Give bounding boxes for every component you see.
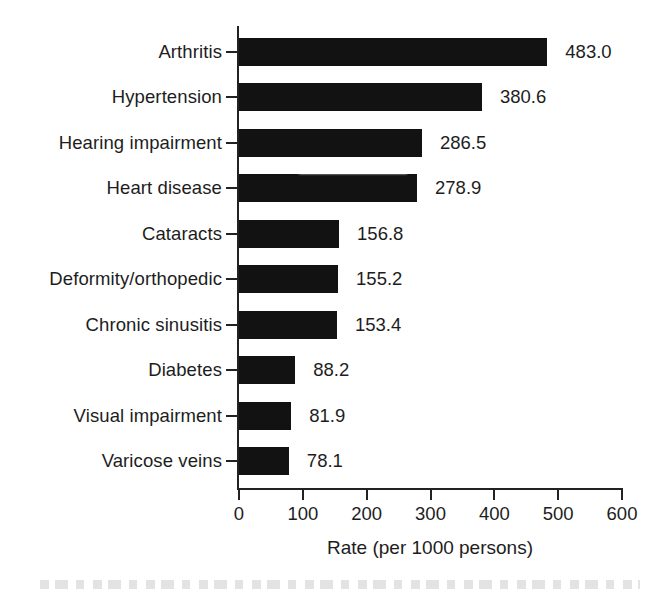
bar [239, 265, 338, 293]
bar [239, 174, 417, 202]
x-axis-tick [238, 490, 240, 500]
bar [239, 83, 482, 111]
category-tick-mark [226, 278, 237, 280]
category-label: Varicose veins [102, 450, 222, 472]
bar-value-label: 380.6 [500, 86, 546, 108]
category-label: Arthritis [158, 41, 222, 63]
x-axis-tick-label: 200 [351, 503, 382, 525]
bar-value-label: 286.5 [440, 132, 486, 154]
bar-row: Heart disease278.9 [0, 166, 668, 212]
category-label: Hypertension [112, 86, 222, 108]
category-tick-mark [226, 96, 237, 98]
x-axis-tick-label: 400 [479, 503, 510, 525]
bar [239, 220, 339, 248]
x-axis-tick [366, 490, 368, 500]
x-axis-tick-label: 100 [287, 503, 318, 525]
category-tick-mark [226, 415, 237, 417]
bar [239, 447, 289, 475]
bar [239, 402, 291, 430]
bar-row: Varicose veins78.1 [0, 439, 668, 485]
category-tick-mark [226, 233, 237, 235]
category-tick-mark [226, 142, 237, 144]
bar-row: Hypertension380.6 [0, 75, 668, 121]
x-axis-tick-label: 600 [607, 503, 638, 525]
bar-chart-plot-area: Arthritis483.0Hypertension380.6Hearing i… [0, 0, 668, 593]
category-tick-mark [226, 324, 237, 326]
category-label: Hearing impairment [59, 132, 222, 154]
x-axis-tick [493, 490, 495, 500]
category-label: Cataracts [142, 223, 222, 245]
bar-value-label: 156.8 [357, 223, 403, 245]
bar-row: Cataracts156.8 [0, 211, 668, 257]
x-axis-tick-label: 300 [415, 503, 446, 525]
category-tick-mark [226, 369, 237, 371]
x-axis-tick [430, 490, 432, 500]
bar-value-label: 81.9 [309, 405, 345, 427]
scan-artifact [40, 580, 640, 589]
bar-value-label: 155.2 [356, 268, 402, 290]
bar [239, 129, 422, 157]
x-axis-tick [557, 490, 559, 500]
bar-row: Hearing impairment286.5 [0, 120, 668, 166]
x-axis-title: Rate (per 1000 persons) [237, 537, 623, 559]
bar-value-label: 88.2 [313, 359, 349, 381]
bar-value-label: 278.9 [435, 177, 481, 199]
bar [239, 311, 337, 339]
category-label: Visual impairment [74, 405, 222, 427]
bar-row: Chronic sinusitis153.4 [0, 302, 668, 348]
bar-value-label: 483.0 [565, 41, 611, 63]
category-tick-mark [226, 460, 237, 462]
category-tick-mark [226, 187, 237, 189]
category-label: Deformity/orthopedic [49, 268, 222, 290]
scan-streak [299, 171, 407, 174]
x-axis-tick-label: 0 [234, 503, 244, 525]
bar-row: Visual impairment81.9 [0, 393, 668, 439]
x-axis-tick-label: 500 [543, 503, 574, 525]
category-label: Heart disease [107, 177, 222, 199]
bar-value-label: 78.1 [307, 450, 343, 472]
x-axis-tick [302, 490, 304, 500]
category-label: Chronic sinusitis [86, 314, 222, 336]
bar [239, 38, 547, 66]
bar [239, 356, 295, 384]
x-axis-tick [621, 490, 623, 500]
chart-page: Arthritis483.0Hypertension380.6Hearing i… [0, 0, 668, 593]
bar-row: Deformity/orthopedic155.2 [0, 257, 668, 303]
bar-value-label: 153.4 [355, 314, 401, 336]
bar-row: Arthritis483.0 [0, 29, 668, 75]
category-tick-mark [226, 51, 237, 53]
category-label: Diabetes [148, 359, 222, 381]
bar-row: Diabetes88.2 [0, 348, 668, 394]
